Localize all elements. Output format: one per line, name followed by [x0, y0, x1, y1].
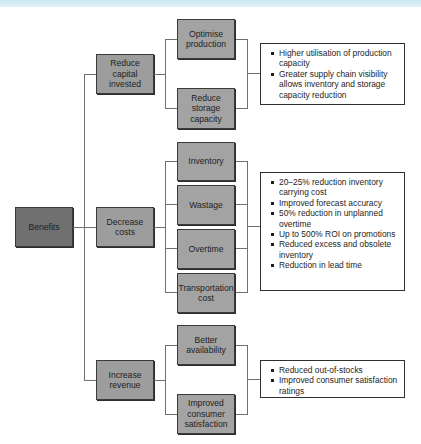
node-better-availability: Better availability	[177, 325, 235, 365]
node-label: Overtime	[189, 244, 224, 255]
connector	[165, 292, 177, 293]
connector	[247, 226, 260, 227]
connector	[84, 380, 96, 381]
connector	[154, 380, 165, 381]
node-label: Reduce storage capacity	[179, 93, 233, 125]
outcome-item: 50% reduction in unplanned overtime	[270, 208, 398, 229]
connector	[165, 204, 177, 205]
node-inventory: Inventory	[177, 142, 235, 181]
node-label: Transportation cost	[178, 283, 233, 304]
node-decrease-costs: Decrease costs	[96, 207, 154, 247]
connector	[84, 74, 96, 75]
root-node-benefits: Benefits	[15, 207, 73, 247]
connector	[165, 414, 177, 415]
outcome-item: Greater supply chain visibility allows i…	[270, 69, 398, 100]
connector	[247, 73, 260, 74]
connector	[165, 39, 166, 109]
node-transportation-cost: Transportation cost	[177, 273, 235, 313]
connector	[154, 74, 165, 75]
connector	[247, 161, 248, 293]
outcomes-box-reduce-capital: Higher utilisation of production capacit…	[260, 43, 405, 105]
connector-trunk	[84, 74, 85, 381]
node-improved-consumer-satisfaction: Improved consumer satisfaction	[177, 394, 235, 434]
connector	[165, 108, 177, 109]
connector	[165, 161, 166, 293]
connector	[165, 248, 177, 249]
node-label: Wastage	[189, 200, 223, 211]
outcome-item: Reduction in lead time	[270, 260, 398, 270]
node-reduce-storage-capacity: Reduce storage capacity	[177, 88, 235, 129]
node-label: Increase revenue	[98, 370, 152, 391]
outcomes-box-increase-revenue: Reduced out-of-stocks Improved consumer …	[260, 360, 405, 398]
connector	[247, 39, 248, 109]
connector	[247, 345, 248, 415]
node-label: Better availability	[179, 335, 233, 356]
node-overtime: Overtime	[177, 229, 235, 269]
connector	[165, 345, 166, 415]
node-wastage: Wastage	[177, 185, 235, 225]
outcome-item: Higher utilisation of production capacit…	[270, 48, 398, 69]
outcomes-list: Higher utilisation of production capacit…	[270, 48, 398, 100]
outcome-item: 20–25% reduction inventory carrying cost	[270, 177, 398, 198]
connector	[165, 39, 177, 40]
connector	[165, 345, 177, 346]
outcome-item: Reduced out-of-stocks	[270, 365, 398, 375]
outcome-item: Up to 500% ROI on promotions	[270, 229, 398, 239]
root-node-label: Benefits	[28, 222, 59, 233]
node-label: Inventory	[188, 156, 223, 167]
node-reduce-capital-invested: Reduce capital invested	[96, 54, 154, 94]
connector	[154, 227, 165, 228]
connector	[247, 379, 260, 380]
outcome-item: Reduced excess and obsolete inventory	[270, 239, 398, 260]
node-label: Decrease costs	[98, 217, 152, 238]
outcomes-list: 20–25% reduction inventory carrying cost…	[270, 177, 398, 271]
node-label: Optimise production	[179, 29, 233, 50]
node-increase-revenue: Increase revenue	[96, 360, 154, 400]
outcome-item: Improved consumer satisfaction ratings	[270, 375, 398, 396]
connector	[165, 161, 177, 162]
node-optimise-production: Optimise production	[177, 19, 235, 59]
outcomes-list: Reduced out-of-stocks Improved consumer …	[270, 365, 398, 396]
node-label: Improved consumer satisfaction	[179, 398, 233, 430]
outcome-item: Improved forecast accuracy	[270, 198, 398, 208]
top-band	[0, 0, 421, 7]
outcomes-box-decrease-costs: 20–25% reduction inventory carrying cost…	[260, 172, 405, 291]
node-label: Reduce capital invested	[98, 58, 152, 90]
